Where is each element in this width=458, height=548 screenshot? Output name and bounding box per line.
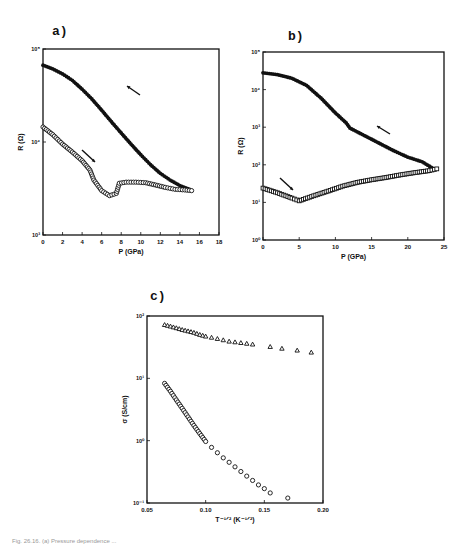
data-point [233,465,237,469]
data-point [295,348,299,352]
chart-panel-a: a)02468101214161810³10⁴10⁵P (GPa)R (Ω) [17,24,223,256]
data-point [250,342,254,346]
x-tick-label: 18 [216,239,223,245]
data-point [227,339,231,343]
data-point [435,167,439,171]
x-tick-label: 0 [41,239,45,245]
x-tick-label: 15 [368,244,375,250]
plot-frame [263,52,444,240]
data-point [309,350,313,354]
series-open-circle [41,125,194,198]
data-point [268,491,272,495]
x-tick-label: 10 [332,244,339,250]
x-tick-label: 16 [196,239,203,245]
x-tick-label: 12 [157,239,164,245]
y-tick-label: 10³ [252,124,260,130]
data-point [215,451,219,455]
panel-label: c) [150,289,166,304]
y-tick-label: 10³ [32,232,40,238]
y-tick-label: 10⁻¹ [133,500,144,506]
y-tick-label: 10¹ [136,375,144,381]
data-point [221,456,225,460]
y-tick-label: 10² [136,313,144,319]
data-point [209,335,213,339]
data-point [286,496,290,500]
data-point [203,334,207,338]
x-tick-label: 10 [137,239,144,245]
y-tick-label: 10⁵ [251,49,260,55]
x-tick-label: 0.20 [317,507,329,513]
x-tick-label: 0 [261,244,265,250]
y-axis-label: R (Ω) [17,133,25,150]
data-point [209,445,213,449]
x-tick-label: 4 [80,239,84,245]
data-point [233,340,237,344]
x-tick-label: 0.10 [200,507,212,513]
data-point [280,346,284,350]
x-tick-label: 5 [298,244,302,250]
figure: a)02468101214161810³10⁴10⁵P (GPa)R (Ω)b)… [0,0,458,548]
x-tick-label: 0.05 [141,507,153,513]
y-axis-label: R (Ω) [237,137,245,154]
figure-caption: Fig. 26.16. (a) Pressure dependence ... [12,538,116,544]
y-tick-label: 10¹ [252,199,260,205]
data-point [239,341,243,345]
x-tick-label: 8 [120,239,124,245]
data-point [245,341,249,345]
data-point [239,469,243,473]
data-point [215,337,219,341]
data-point [245,474,249,478]
x-axis-label: P (GPa) [118,248,143,256]
series-open-triangle [162,323,313,354]
y-tick-label: 10⁵ [31,46,40,52]
data-point [204,439,208,443]
series-filled-circle [41,63,191,191]
y-tick-label: 10⁴ [31,139,40,145]
y-axis-label: σ (S/cm) [121,395,129,423]
x-tick-label: 14 [177,239,184,245]
x-tick-label: 2 [61,239,65,245]
chart-panel-b: b)051015202510⁰10¹10²10³10⁴10⁵P (GPa)R (… [237,29,448,261]
x-tick-label: 25 [441,244,448,250]
data-point [251,478,255,482]
y-tick-label: 10⁰ [252,237,261,243]
y-tick-label: 10⁰ [136,438,145,444]
data-point [256,483,260,487]
x-axis-label: P (GPa) [341,253,366,261]
data-point [190,189,194,193]
data-point [221,338,225,342]
data-point [268,345,272,349]
chart-panel-c: c)0.050.100.150.2010⁻¹10⁰10¹10²T⁻¹ᐟ² (K⁻… [121,289,329,524]
panel-label: a) [52,24,68,39]
series-open-circle [163,381,290,500]
panel-label: b) [288,29,304,44]
x-tick-label: 20 [404,244,411,250]
data-point [227,460,231,464]
x-axis-label: T⁻¹ᐟ² (K⁻¹ᐟ²) [215,516,254,524]
data-point [262,487,266,491]
series-filled-circle [261,71,435,170]
y-tick-label: 10⁴ [251,87,260,93]
x-tick-label: 0.15 [258,507,270,513]
y-tick-label: 10² [252,162,260,168]
x-tick-label: 6 [100,239,104,245]
